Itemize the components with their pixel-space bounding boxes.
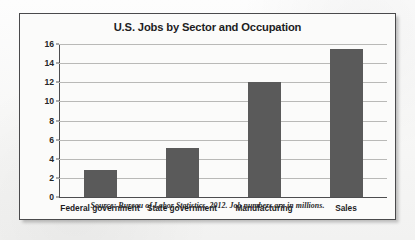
y-axis-label-4: 4 — [49, 154, 54, 164]
page-background: U.S. Jobs by Sector and Occupation 02468… — [0, 0, 415, 240]
y-tick-mark-8 — [56, 120, 60, 121]
y-tick-mark-4 — [56, 158, 60, 159]
y-axis-label-10: 10 — [44, 96, 54, 106]
y-axis-label-6: 6 — [49, 135, 54, 145]
y-tick-mark-10 — [56, 101, 60, 102]
y-tick-mark-2 — [56, 177, 60, 178]
gridline-0 — [59, 197, 387, 198]
y-tick-mark-16 — [56, 44, 60, 45]
y-axis-label-14: 14 — [44, 58, 54, 68]
y-tick-mark-12 — [56, 82, 60, 83]
gridline-16 — [59, 44, 387, 45]
y-tick-mark-0 — [56, 197, 60, 198]
y-axis-label-12: 12 — [44, 77, 54, 87]
y-tick-mark-14 — [56, 63, 60, 64]
chart-figure: U.S. Jobs by Sector and Occupation 02468… — [19, 13, 396, 220]
bar-federal-government[interactable] — [84, 170, 117, 197]
plot-area: 0246810121416 Federal governmentState go… — [59, 44, 387, 197]
y-axis-label-8: 8 — [49, 116, 54, 126]
y-axis-label-16: 16 — [44, 39, 54, 49]
y-tick-mark-6 — [56, 139, 60, 140]
source-note: Source: Bureau of Labor Statistics, 2012… — [20, 201, 395, 210]
y-axis-label-2: 2 — [49, 173, 54, 183]
chart-title: U.S. Jobs by Sector and Occupation — [20, 21, 395, 33]
bar-manufacturing[interactable] — [248, 82, 281, 197]
bar-state-government[interactable] — [166, 148, 199, 197]
bar-sales[interactable] — [330, 49, 363, 197]
